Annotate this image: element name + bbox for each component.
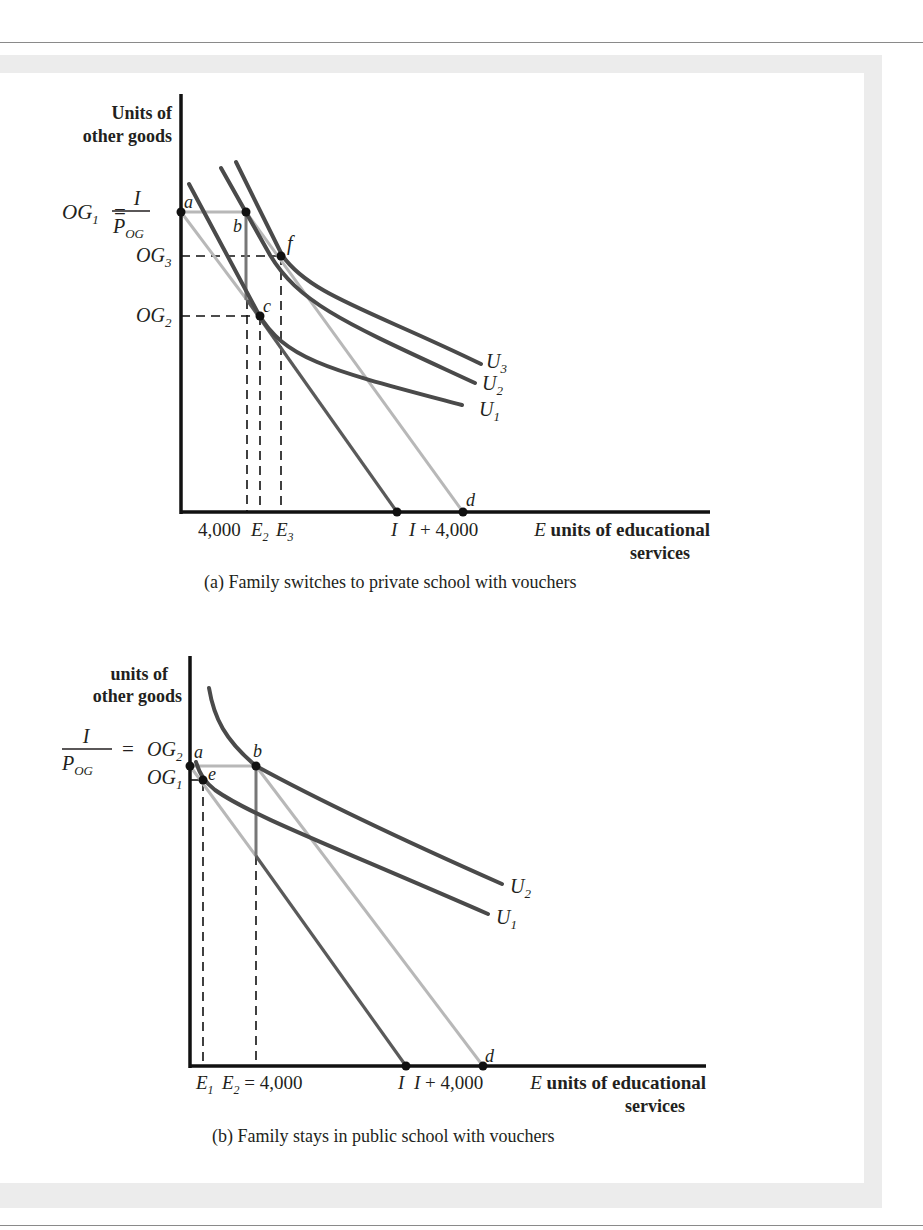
chart-a-tick-4000: 4,000 xyxy=(198,519,241,540)
chart-b-point-e xyxy=(199,776,208,785)
chart-b-ylabel-line1: units of xyxy=(110,664,169,684)
chart-b-og2-label: OG2 xyxy=(147,738,183,764)
chart-b-indifference-curves xyxy=(196,688,502,914)
chart-a: Units of other goods OG1 = I POG OG3 OG2 xyxy=(62,94,710,593)
chart-b-budget-dark xyxy=(256,856,406,1066)
chart-b-label-a: a xyxy=(194,742,203,762)
figure: Units of other goods OG1 = I POG OG3 OG2 xyxy=(0,0,923,1230)
chart-b-frac-num: I xyxy=(82,725,91,747)
chart-b-point-i xyxy=(402,1062,411,1071)
chart-a-ylabel-line1: Units of xyxy=(111,103,173,123)
chart-b-budget-voucher xyxy=(256,766,483,1066)
chart-a-tick-e3: E3 xyxy=(275,519,294,544)
chart-a-tick-e2: E2 xyxy=(250,519,269,544)
chart-b-tick-e2: E2 = 4,000 xyxy=(221,1072,303,1097)
chart-a-og3-label: OG3 xyxy=(136,244,172,270)
chart-a-frac-den: POG xyxy=(112,215,145,241)
chart-b-point-b xyxy=(252,762,261,771)
chart-b-u2-curve xyxy=(209,688,502,884)
chart-b-dashed-guides xyxy=(203,782,256,1064)
chart-b-tick-i: I xyxy=(397,1072,406,1093)
chart-b-u1-curve xyxy=(196,762,488,914)
chart-b-xlabel-line2: services xyxy=(625,1096,685,1116)
chart-a-label-a: a xyxy=(184,192,193,212)
chart-a-u1-curve xyxy=(189,184,462,405)
chart-b-label-d: d xyxy=(485,1046,495,1066)
chart-a-point-b xyxy=(242,208,251,217)
chart-a-ylabel-line2: other goods xyxy=(83,126,172,146)
chart-a-label-d: d xyxy=(466,490,476,510)
chart-a-dashed-guides xyxy=(181,256,281,511)
chart-b: units of other goods I POG = OG2 OG1 xyxy=(61,656,706,1147)
chart-a-u1-label: U1 xyxy=(479,398,500,424)
chart-b-u1-label: U1 xyxy=(496,906,517,932)
chart-a-label-b: b xyxy=(233,216,242,236)
chart-b-tick-i4000: I + 4,000 xyxy=(413,1072,483,1093)
chart-a-tick-i4000: I + 4,000 xyxy=(408,519,478,540)
chart-b-point-a xyxy=(186,762,195,771)
chart-a-point-f xyxy=(277,252,286,261)
chart-a-xlabel-line1: E units of educational xyxy=(533,519,710,540)
chart-a-og2-label: OG2 xyxy=(136,304,172,330)
chart-b-frac-den: POG xyxy=(61,752,94,778)
chart-b-label-b: b xyxy=(253,741,262,761)
chart-a-label-f: f xyxy=(287,232,295,255)
chart-b-xlabel-line1: E units of educational xyxy=(529,1072,706,1093)
chart-b-u2-label: U2 xyxy=(510,875,531,901)
chart-b-label-e: e xyxy=(208,764,216,784)
chart-b-og1-label: OG1 xyxy=(147,766,182,792)
chart-b-ylabel-line2: other goods xyxy=(93,686,182,706)
chart-a-frac-num: I xyxy=(133,187,142,209)
chart-a-xlabel-line2: services xyxy=(630,543,690,563)
chart-b-caption: (b) Family stays in public school with v… xyxy=(212,1126,554,1147)
chart-b-equals: = xyxy=(122,737,134,761)
chart-a-label-c: c xyxy=(263,296,271,316)
chart-a-tick-i: I xyxy=(390,519,399,540)
chart-a-point-i xyxy=(393,508,402,517)
chart-a-og1-label: OG1 xyxy=(62,200,99,227)
chart-a-caption: (a) Family switches to private school wi… xyxy=(204,572,576,593)
chart-b-tick-e1: E1 xyxy=(195,1072,214,1097)
